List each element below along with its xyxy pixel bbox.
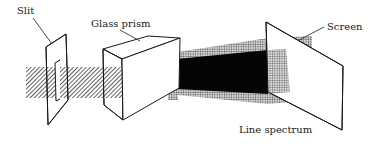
glass-prism [103,36,180,120]
prism-leader [120,30,140,41]
prism-diagram: Slit Glass prism Screen Line spectrum [0,0,373,144]
slit-plate [46,34,68,125]
slit-label: Slit [17,6,34,16]
diagram-canvas [0,0,373,144]
spectrum-label: Line spectrum [239,125,312,135]
screen-label: Screen [327,22,363,32]
prism-label: Glass prism [91,19,151,29]
slit-leader [33,18,52,44]
